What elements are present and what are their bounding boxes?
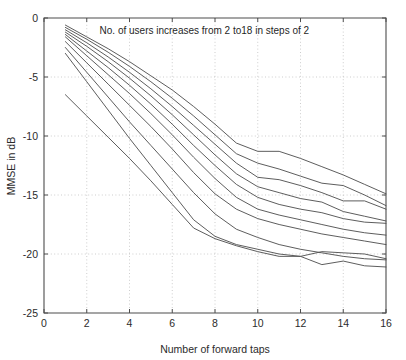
plot-annotations: No. of users increases from 2 to18 in st…	[100, 25, 310, 36]
y-tick-label: 0	[32, 12, 38, 24]
x-axis-title: Number of forward taps	[160, 343, 270, 355]
x-tick-label: 4	[127, 317, 133, 329]
x-tick-label: 14	[337, 317, 349, 329]
plot-background	[0, 0, 406, 360]
x-tick-label: 10	[252, 317, 264, 329]
annotation-users-note: No. of users increases from 2 to18 in st…	[100, 25, 310, 36]
x-tick-label: 12	[295, 317, 307, 329]
mmse-vs-forward-taps-chart: 02468101214160-5-10-15-20-25 No. of user…	[0, 0, 406, 360]
y-tick-label: -15	[23, 189, 38, 201]
x-tick-label: 6	[169, 317, 175, 329]
y-tick-label: -10	[23, 130, 38, 142]
x-tick-label: 16	[380, 317, 392, 329]
x-tick-label: 2	[84, 317, 90, 329]
y-tick-label: -5	[29, 71, 38, 83]
y-tick-label: -20	[23, 248, 38, 260]
x-tick-label: 0	[41, 317, 47, 329]
y-axis-title: MMSE in dB	[5, 137, 17, 195]
x-tick-label: 8	[212, 317, 218, 329]
chart-figure: 02468101214160-5-10-15-20-25 No. of user…	[0, 0, 406, 360]
y-tick-label: -25	[23, 307, 38, 319]
